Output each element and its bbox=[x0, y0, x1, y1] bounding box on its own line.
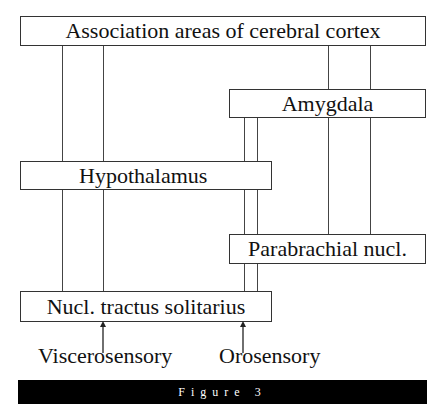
figure-caption: Figure 3 bbox=[178, 385, 266, 400]
arrowhead-icon bbox=[100, 321, 106, 327]
input-viscerosensory: Viscerosensory bbox=[38, 343, 172, 369]
input-orosensory: Orosensory bbox=[219, 343, 320, 369]
figure-caption-bar: Figure 3 bbox=[18, 380, 427, 404]
arrowhead-icon bbox=[240, 321, 246, 327]
